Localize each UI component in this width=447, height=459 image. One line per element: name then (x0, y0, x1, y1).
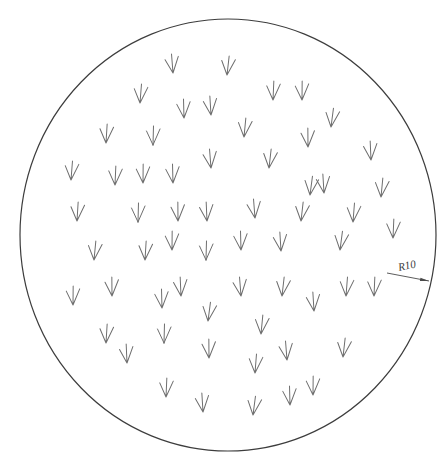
grass-arrow-down (173, 277, 188, 297)
grass-arrow-down (387, 219, 401, 238)
grass-arrow-down (200, 241, 214, 260)
grass-arrow-down (347, 203, 361, 223)
grass-arrow-down (295, 202, 310, 222)
grass-arrow-down (334, 230, 349, 250)
grass-arrow-down (109, 166, 123, 185)
grass-arrow-down (273, 231, 288, 251)
grass-arrow-down (306, 376, 320, 395)
grass-arrow-down (368, 277, 382, 296)
grass-arrow-down (233, 276, 248, 296)
grass-arrow-down (100, 124, 114, 143)
grass-arrow-down (306, 291, 321, 311)
grass-arrow-down (165, 53, 180, 73)
grass-arrow-down (100, 324, 114, 343)
grass-arrow-down (119, 344, 134, 364)
circle-outline (20, 19, 436, 451)
grass-arrow-down (267, 81, 281, 100)
grass-arrow-down (234, 231, 248, 251)
grass-arrow-down (160, 378, 174, 397)
grass-arrow-down (177, 99, 191, 119)
grass-arrow-down (247, 395, 262, 415)
grass-arrow-down (171, 202, 185, 221)
grass-arrow-down (158, 324, 172, 343)
leader-arrowhead-icon (420, 278, 429, 281)
grass-arrow-down (221, 56, 236, 76)
grass-arrow-down (166, 164, 180, 184)
grass-arrow-down (105, 277, 119, 296)
grass-arrow-down (295, 81, 309, 100)
grass-arrow-down (202, 301, 217, 321)
grass-arrow-down (65, 161, 79, 181)
grass-arrow-down (203, 148, 218, 168)
grass-arrow-down (301, 128, 315, 147)
grass-arrow-down (279, 340, 294, 360)
grass-arrow-down (134, 84, 148, 104)
grass-arrow-down (66, 286, 80, 305)
grass-arrow-down (71, 202, 85, 221)
grass-arrow-down (249, 354, 263, 374)
grass-arrow-down (276, 277, 291, 297)
grass-arrow-down (316, 173, 331, 193)
grass-arrow-down (363, 141, 378, 161)
grass-arrow-down (165, 231, 179, 250)
grass-arrow-down (199, 202, 214, 222)
grass-arrow-down (195, 392, 210, 412)
grass-arrow-down (147, 126, 161, 145)
grass-arrow-down (304, 175, 319, 195)
grass-arrow-down (203, 95, 218, 115)
grass-arrow-down (88, 241, 103, 261)
grass-arrow-down (139, 241, 153, 260)
drawing-svg: R10 (0, 0, 447, 459)
grass-arrow-down (283, 386, 297, 406)
grass-arrow-down (202, 339, 216, 358)
grass-arrow-down (325, 107, 340, 127)
grass-arrow-down (375, 178, 390, 198)
grass-arrow-down (136, 164, 150, 183)
grass-arrow-down (238, 118, 253, 138)
grass-arrow-down (337, 338, 352, 358)
grass-arrow-down (132, 203, 146, 222)
grass-arrow-down (247, 198, 262, 218)
grass-arrow-down (263, 149, 278, 169)
radius-dimension-label: R10 (396, 257, 417, 273)
grass-arrow-down (340, 277, 354, 297)
radius-dimension: R10 (387, 257, 429, 281)
grass-symbols-group (65, 53, 401, 415)
grass-arrow-down (155, 289, 169, 309)
technical-drawing-canvas: R10 (0, 0, 447, 459)
grass-arrow-down (255, 315, 270, 335)
